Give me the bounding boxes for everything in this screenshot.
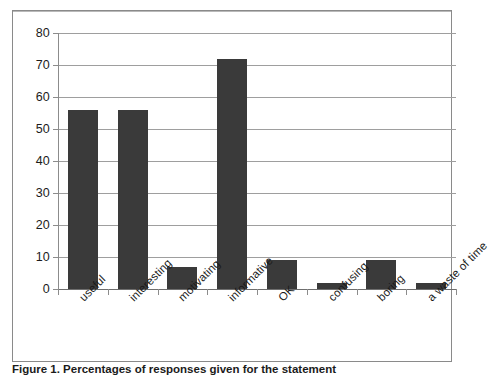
chart-frame: 80 70 60 50 40 30 20 10 0 usefulinterest…	[12, 10, 452, 362]
figure-caption: Figure 1. Percentages of responses given…	[12, 363, 462, 375]
bars-layer	[58, 33, 456, 289]
bar-interesting	[118, 110, 148, 289]
y-axis-label-10: 10	[36, 250, 50, 264]
plot-area: 80 70 60 50 40 30 20 10 0	[58, 33, 456, 289]
category-tick-8	[456, 289, 457, 295]
y-axis-label-0: 0	[43, 282, 50, 296]
bar-informative	[217, 59, 247, 289]
y-axis-label-20: 20	[36, 218, 50, 232]
y-axis-label-60: 60	[36, 90, 50, 104]
y-axis-label-80: 80	[36, 26, 50, 40]
y-axis-label-30: 30	[36, 186, 50, 200]
y-axis-label-40: 40	[36, 154, 50, 168]
y-axis-label-70: 70	[36, 58, 50, 72]
bar-useful	[68, 110, 98, 289]
category-axis-labels: usefulinterestingmotivatinginformativeOK…	[58, 295, 456, 371]
y-axis-label-50: 50	[36, 122, 50, 136]
